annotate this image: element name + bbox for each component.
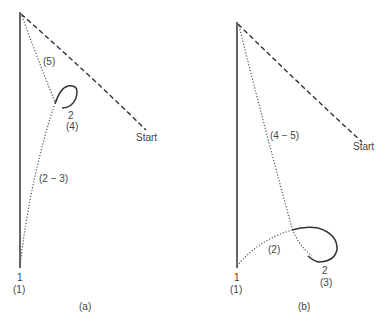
b-label-node-1-sub: (1)	[230, 285, 242, 295]
b-label-node-1: 1	[234, 273, 240, 283]
panel-b-paths	[237, 22, 362, 268]
a-dotted-segment-2-3	[20, 106, 54, 266]
panel-a-paths	[20, 12, 146, 268]
a-caption: (a)	[79, 302, 91, 312]
a-label-segment-5: (5)	[43, 57, 55, 67]
a-dashed-start-path	[21, 14, 146, 130]
a-label-node-1-sub: (1)	[13, 285, 25, 295]
a-label-node-2-sub: (4)	[66, 122, 78, 132]
b-label-node-2: 2	[322, 266, 328, 276]
a-loop-solid	[55, 86, 77, 108]
b-loop-solid	[292, 227, 337, 262]
a-label-segment-2-3: (2 − 3)	[39, 174, 68, 184]
b-dashed-start-path	[238, 24, 362, 142]
a-label-start: Start	[136, 133, 157, 143]
b-label-node-2-sub: (3)	[320, 278, 332, 288]
a-label-node-2: 2	[68, 111, 74, 121]
a-label-node-1: 1	[17, 273, 23, 283]
b-caption: (b)	[298, 302, 310, 312]
b-dotted-segment-2	[237, 230, 292, 266]
diagram-canvas	[0, 0, 389, 322]
b-label-segment-2: (2)	[268, 245, 280, 255]
b-label-start: Start	[353, 142, 374, 152]
b-label-segment-4-5: (4 − 5)	[270, 131, 299, 141]
